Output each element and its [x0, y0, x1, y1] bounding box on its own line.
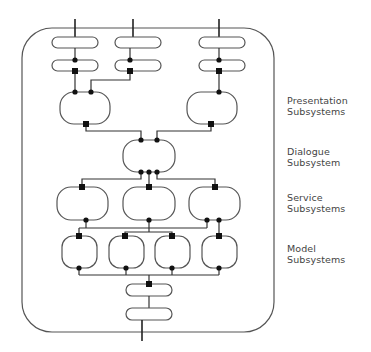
layer-label-line2: Subsystems — [287, 106, 348, 117]
layer-label-line2: Subsystems — [287, 254, 345, 265]
service-subsystem-right — [189, 187, 240, 220]
layer-label-line1: Dialogue — [287, 146, 340, 157]
subsystem-architecture-diagram — [0, 0, 371, 352]
layer-label-line1: Service — [287, 192, 345, 203]
model-subsystems — [62, 236, 237, 268]
layer-label-service: Service Subsystems — [287, 192, 345, 214]
presentation-subsystem-left — [60, 92, 110, 124]
interface-squares — [72, 68, 222, 287]
layer-label-line2: Subsystem — [287, 157, 340, 168]
layer-label-dialogue: Dialogue Subsystem — [287, 146, 340, 168]
top-capsules-row1 — [52, 37, 245, 48]
layer-label-line1: Model — [287, 243, 345, 254]
presentation-subsystems — [60, 92, 237, 124]
model-subsystem-1 — [62, 236, 97, 268]
interface-dots — [72, 57, 221, 270]
model-subsystem-4 — [202, 236, 237, 268]
bottom-capsules — [126, 284, 172, 320]
service-subsystem-left — [57, 187, 108, 220]
layer-label-presentation: Presentation Subsystems — [287, 95, 348, 117]
layer-label-line2: Subsystems — [287, 203, 345, 214]
service-subsystems — [57, 187, 240, 220]
model-subsystem-3 — [155, 236, 190, 268]
layer-label-line1: Presentation — [287, 95, 348, 106]
layer-label-model: Model Subsystems — [287, 243, 345, 265]
dialogue-subsystem — [123, 140, 175, 172]
model-subsystem-2 — [109, 236, 144, 268]
service-subsystem-middle — [123, 187, 175, 220]
presentation-subsystem-right — [187, 92, 237, 124]
